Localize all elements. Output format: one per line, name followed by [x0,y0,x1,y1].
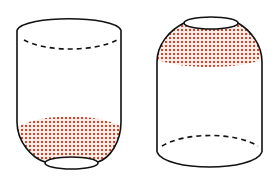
containers-diagram [0,0,276,184]
right-dashed-rim [162,136,258,147]
left-top-rim [17,19,121,30]
right-top-opening [184,17,238,29]
right-container [154,10,265,167]
left-dashed-rim [24,40,117,49]
diagram-canvas: Two cup-shaped cylindrical containers wi… [0,0,276,184]
left-container [15,19,124,175]
right-bottom-rim [157,152,262,167]
left-bottom-opening [45,157,98,169]
